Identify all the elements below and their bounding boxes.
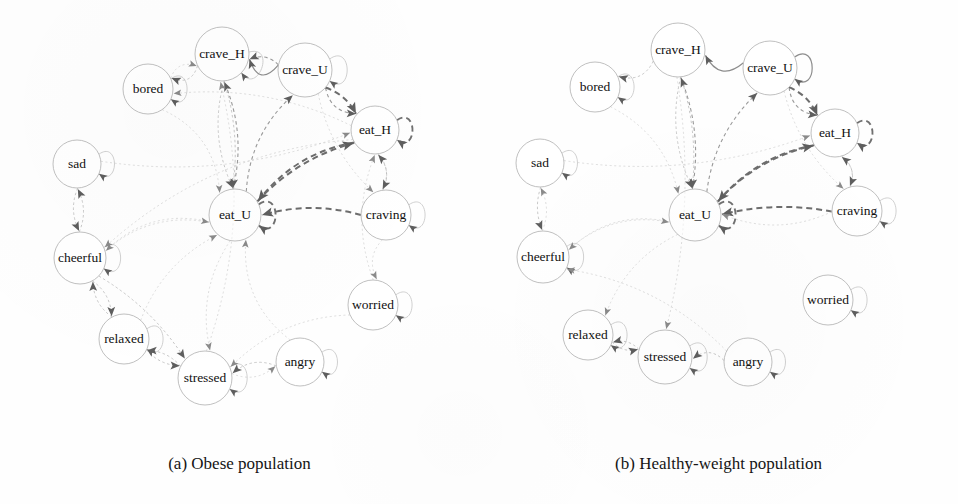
directed-edge	[610, 107, 678, 194]
directed-edge	[372, 240, 382, 280]
node-label-angry: angry	[733, 354, 764, 369]
graph-node-eat_H[interactable]: eat_H	[811, 109, 859, 157]
edge-arrowhead	[705, 55, 713, 65]
node-label-stressed: stressed	[184, 370, 227, 385]
graph-node-angry[interactable]: angry	[276, 338, 324, 386]
directed-edge	[232, 366, 276, 377]
directed-edge	[246, 95, 293, 191]
edge-arrowhead	[611, 345, 620, 353]
directed-edge	[224, 82, 238, 189]
graph-node-relaxed[interactable]: relaxed	[99, 314, 149, 364]
node-label-stressed: stressed	[644, 349, 687, 364]
edge-arrowhead	[241, 73, 249, 82]
edge-arrowhead	[613, 336, 623, 344]
directed-edge	[705, 55, 743, 71]
edge-arrowhead	[690, 368, 699, 376]
directed-edge	[717, 146, 813, 202]
graph-node-sad[interactable]: sad	[516, 139, 564, 187]
graph-node-worried[interactable]: worried	[348, 280, 398, 330]
edge-arrowhead	[170, 362, 179, 370]
edge-arrowhead	[857, 143, 868, 152]
edge-arrowhead	[342, 133, 351, 139]
node-label-eat_U: eat_U	[679, 207, 711, 222]
edge-arrowhead	[147, 347, 156, 355]
directed-edge	[93, 282, 112, 317]
graph-node-angry[interactable]: angry	[724, 338, 772, 386]
graph-node-crave_U[interactable]: crave_U	[278, 43, 332, 97]
edge-arrowhead	[330, 81, 339, 89]
edge-arrowhead	[409, 225, 418, 233]
graph-node-worried[interactable]: worried	[803, 275, 853, 325]
node-label-craving: craving	[837, 203, 878, 218]
graph-node-relaxed[interactable]: relaxed	[563, 310, 613, 360]
node-label-crave_U: crave_U	[282, 62, 328, 77]
directed-edge	[206, 241, 230, 351]
edge-arrowhead	[541, 188, 547, 196]
node-label-relaxed: relaxed	[568, 327, 608, 342]
directed-edge	[676, 77, 693, 188]
edge-arrowhead	[201, 218, 209, 225]
edge-arrowhead	[171, 99, 180, 107]
directed-edge	[718, 145, 814, 201]
edge-arrowhead	[562, 173, 571, 181]
graph-node-eat_U[interactable]: eat_U	[209, 189, 261, 241]
directed-edge	[707, 93, 757, 192]
graph-node-crave_H[interactable]: crave_H	[651, 23, 705, 77]
node-layer: crave_Hcrave_Uboredeat_Hsadeat_Ucravingc…	[516, 23, 882, 386]
node-label-crave_H: crave_H	[199, 46, 245, 61]
graph-node-bored[interactable]: bored	[570, 62, 620, 112]
graph-node-bored[interactable]: bored	[123, 64, 173, 114]
directed-edge	[174, 92, 352, 126]
edge-arrowhead	[249, 52, 259, 59]
node-label-cheerful: cheerful	[58, 250, 102, 265]
edge-arrowhead	[618, 97, 627, 105]
directed-edge	[681, 77, 694, 188]
graph-node-sad[interactable]: sad	[53, 140, 101, 188]
directed-edge	[257, 143, 353, 202]
graph-node-crave_H[interactable]: crave_H	[195, 27, 249, 81]
edge-arrowhead	[365, 185, 373, 193]
graph-node-cheerful[interactable]: cheerful	[54, 232, 106, 284]
edge-arrowhead	[535, 220, 542, 230]
edge-arrowhead	[99, 174, 108, 182]
edge-arrowhead	[665, 321, 671, 329]
node-label-cheerful: cheerful	[521, 249, 565, 264]
node-label-eat_H: eat_H	[359, 122, 391, 137]
node-label-sad: sad	[531, 155, 549, 170]
edge-arrowhead	[322, 372, 331, 380]
directed-edge	[141, 235, 217, 320]
directed-edge	[605, 234, 677, 315]
edge-arrowhead	[397, 140, 408, 149]
graph-node-cheerful[interactable]: cheerful	[517, 231, 569, 283]
edge-arrowhead	[628, 348, 638, 356]
graph-node-craving[interactable]: craving	[361, 190, 411, 240]
directed-edge	[218, 81, 233, 188]
caption-panel-b: (b) Healthy-weight population	[479, 454, 958, 474]
edge-arrowhead	[104, 269, 113, 277]
directed-edge	[262, 208, 361, 215]
edge-arrowhead	[177, 349, 185, 359]
graph-node-stressed[interactable]: stressed	[178, 351, 232, 405]
directed-edge	[569, 219, 670, 250]
edge-arrowhead	[262, 208, 274, 217]
node-label-bored: bored	[580, 79, 611, 94]
directed-edge	[249, 59, 278, 75]
node-label-eat_H: eat_H	[819, 125, 851, 140]
edge-arrowhead	[89, 282, 97, 291]
node-layer: crave_Hcrave_Uboredeat_Hsadeat_Ucravingc…	[53, 27, 411, 405]
graph-canvas-healthy: crave_Hcrave_Uboredeat_Hsadeat_Ucravingc…	[479, 0, 958, 440]
edge-arrowhead	[209, 235, 217, 242]
directed-edge	[162, 110, 219, 193]
directed-edge	[722, 212, 832, 225]
edge-arrowhead	[230, 389, 239, 397]
panel-healthy-weight-population: crave_Hcrave_Uboredeat_Hsadeat_Ucravingc…	[479, 0, 958, 440]
edge-arrowhead	[850, 176, 857, 186]
node-label-relaxed: relaxed	[104, 331, 144, 346]
node-label-worried: worried	[352, 297, 394, 312]
graph-node-eat_H[interactable]: eat_H	[351, 106, 399, 154]
node-label-crave_H: crave_H	[655, 42, 701, 57]
graph-node-craving[interactable]: craving	[832, 186, 882, 236]
graph-node-stressed[interactable]: stressed	[638, 330, 692, 384]
graph-node-crave_U[interactable]: crave_U	[743, 41, 797, 95]
graph-node-eat_U[interactable]: eat_U	[669, 189, 721, 241]
